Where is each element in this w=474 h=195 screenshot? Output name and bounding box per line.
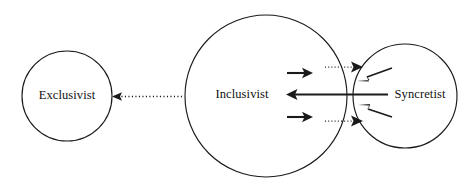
node-label-exclusivist: Exclusivist — [39, 88, 96, 102]
arrow-head-left — [112, 92, 122, 101]
connector-inclusivist-to-exclusivist[interactable] — [112, 92, 182, 101]
diagram-svg: Exclusivist Inclusivist Syncretist — [0, 0, 474, 195]
node-label-inclusivist: Inclusivist — [215, 87, 269, 101]
diagram-canvas: Exclusivist Inclusivist Syncretist — [0, 0, 474, 195]
node-label-syncretist: Syncretist — [395, 87, 446, 101]
